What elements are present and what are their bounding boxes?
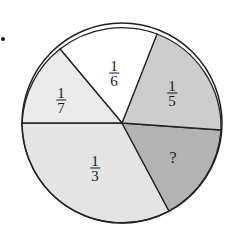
label-one-sixth: 1 6: [109, 59, 119, 88]
pie-chart: [0, 0, 234, 235]
label-one-fifth: 1 5: [167, 79, 177, 108]
label-one-third: 1 3: [90, 154, 100, 183]
label-unknown: ?: [169, 149, 176, 167]
label-one-seventh: 1 7: [56, 86, 66, 115]
